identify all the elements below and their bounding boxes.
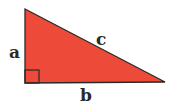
side-label-c: c bbox=[96, 29, 106, 49]
side-label-a: a bbox=[9, 42, 20, 62]
side-label-b: b bbox=[80, 85, 92, 105]
right-triangle-diagram: a c b bbox=[0, 0, 176, 110]
triangle-shape bbox=[25, 9, 165, 83]
